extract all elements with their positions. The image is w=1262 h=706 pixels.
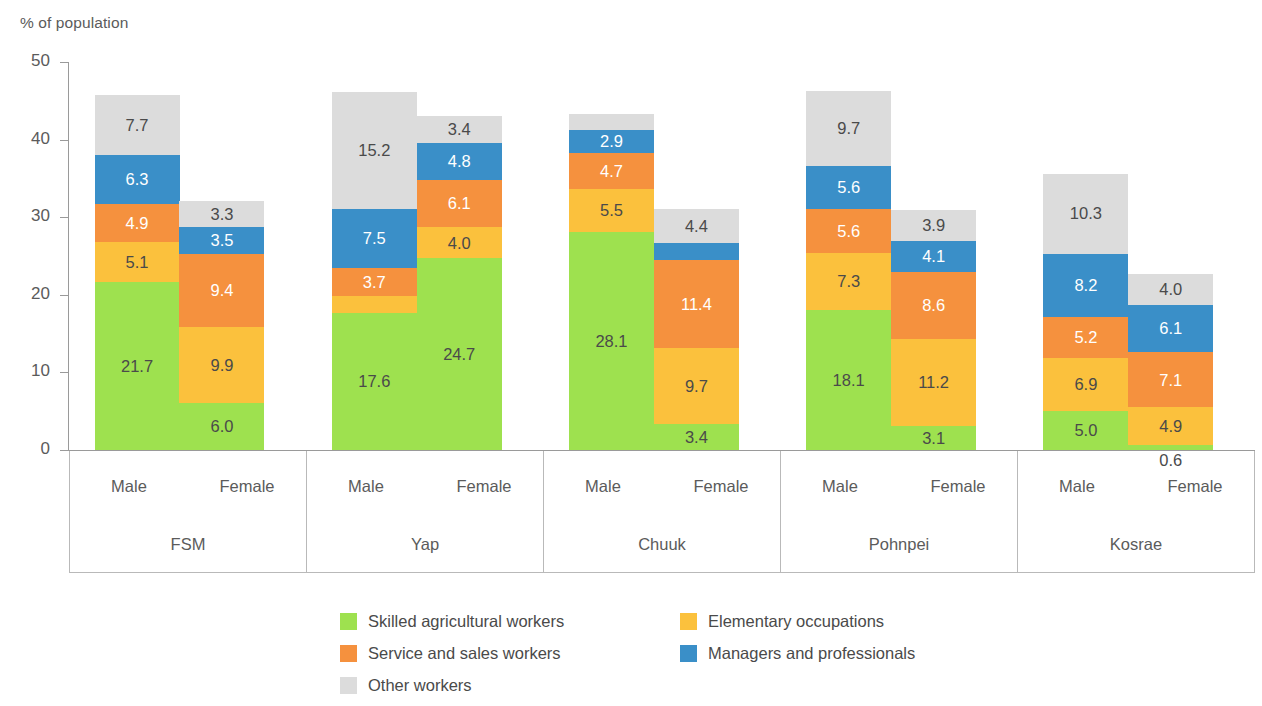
bar-segment-value: 18.1 [833, 372, 865, 389]
bar-segment-value: 5.5 [600, 202, 623, 219]
bar-segment-value: 24.7 [443, 346, 475, 363]
y-tick-mark [60, 295, 69, 296]
category-group-yap: MaleFemaleYap [307, 451, 544, 572]
bar-segment: 5.2 [1043, 317, 1128, 357]
bar-segment: 5.5 [569, 189, 654, 232]
bar-segment: 8.2 [1043, 254, 1128, 318]
bar-fsm-male: 7.76.34.95.121.7 [95, 95, 180, 450]
legend-row: Other workers [340, 676, 960, 695]
y-tick-mark [60, 217, 69, 218]
bar-segment-value: 4.0 [1159, 281, 1182, 298]
subgroup-label-male: Male [544, 477, 662, 496]
group-label-kosrae: Kosrae [1018, 535, 1254, 554]
chart-legend: Skilled agricultural workersElementary o… [340, 612, 960, 706]
bar-segment-value: 5.0 [1074, 422, 1097, 439]
bar-segment: 4.9 [95, 204, 180, 242]
y-tick-label: 10 [4, 361, 50, 381]
category-group-chuuk: MaleFemaleChuuk [544, 451, 781, 572]
y-tick-mark [60, 372, 69, 373]
legend-swatch-icon [680, 645, 697, 662]
bar-pohnpei-male: 9.75.65.67.318.1 [806, 91, 891, 450]
bar-segment-value: 21.7 [121, 358, 153, 375]
bar-segment: 4.7 [569, 153, 654, 189]
bar-segment-value: 11.2 [918, 374, 949, 391]
bar-segment: 6.3 [95, 155, 180, 204]
bar-segment: 2.2 [654, 243, 739, 260]
bar-segment-value: 2.9 [600, 133, 623, 150]
bar-segment: 3.4 [654, 424, 739, 450]
bar-segment-value: 6.1 [1159, 320, 1182, 337]
subgroup-label-female: Female [188, 477, 306, 496]
bar-segment-value: 7.7 [126, 117, 149, 134]
bar-segment-value: 3.7 [363, 274, 386, 291]
subgroup-label-female: Female [425, 477, 543, 496]
bar-segment-value: 7.1 [1159, 372, 1182, 389]
bar-segment: 3.1 [891, 426, 976, 450]
bar-segment-value: 9.7 [685, 378, 708, 395]
bar-fsm-female: 3.33.59.49.96.0 [179, 201, 264, 450]
subgroup-label-female: Female [662, 477, 780, 496]
bar-segment-value: 5.1 [126, 254, 149, 271]
bar-segment-value: 15.2 [358, 142, 390, 159]
bar-segment-value: 5.6 [837, 179, 860, 196]
legend-item[interactable]: Other workers [340, 676, 680, 695]
bar-segment: 9.7 [654, 348, 739, 423]
bar-segment-value: 28.1 [595, 333, 627, 350]
y-tick-mark [60, 140, 69, 141]
bar-segment-value: 3.4 [685, 429, 708, 446]
bar-segment-value: 4.0 [448, 235, 471, 252]
group-label-pohnpei: Pohnpei [781, 535, 1017, 554]
bar-yap-male: 15.27.53.72.217.6 [332, 92, 417, 450]
bar-kosrae-female: 4.06.17.14.90.6 [1128, 274, 1213, 450]
legend-swatch-icon [340, 613, 357, 630]
bar-segment: 3.3 [179, 201, 264, 227]
bar-segment-value: 3.9 [922, 217, 945, 234]
bar-segment-value: 9.7 [837, 120, 860, 137]
subgroup-labels: MaleFemale [70, 477, 306, 496]
bar-segment: 3.4 [417, 116, 502, 142]
y-tick-label: 30 [4, 206, 50, 226]
bar-pohnpei-female: 3.94.18.611.23.1 [891, 210, 976, 450]
legend-item[interactable]: Managers and professionals [680, 644, 960, 663]
bar-segment-value: 4.7 [600, 163, 623, 180]
bar-segment: 24.7 [417, 258, 502, 450]
bar-segment-value: 5.2 [1074, 329, 1097, 346]
bar-segment: 2.1 [569, 114, 654, 130]
category-group-kosrae: MaleFemaleKosrae [1018, 451, 1254, 572]
legend-item[interactable]: Service and sales workers [340, 644, 680, 663]
bar-segment: 7.3 [806, 253, 891, 310]
bar-segment: 6.9 [1043, 358, 1128, 412]
bar-segment: 4.9 [1128, 407, 1213, 445]
bar-segment: 7.1 [1128, 352, 1213, 407]
bar-segment-value: 9.9 [211, 357, 234, 374]
subgroup-labels: MaleFemale [1018, 477, 1254, 496]
y-tick-mark [60, 62, 69, 63]
bar-segment-value: 7.5 [363, 230, 386, 247]
bar-segment-value: 4.1 [922, 248, 945, 265]
bar-yap-female: 3.44.86.14.024.7 [417, 116, 502, 450]
bar-segment: 4.4 [654, 209, 739, 243]
bar-segment-value: 4.9 [1159, 418, 1182, 435]
subgroup-label-male: Male [781, 477, 899, 496]
bar-segment: 4.8 [417, 143, 502, 180]
bar-segment-value: 8.6 [922, 297, 945, 314]
bar-segment: 7.5 [332, 209, 417, 267]
bar-segment-value: 10.3 [1070, 205, 1102, 222]
legend-label: Service and sales workers [368, 644, 561, 663]
y-tick-label: 0 [4, 439, 50, 459]
subgroup-label-male: Male [307, 477, 425, 496]
bar-segment: 3.7 [332, 268, 417, 297]
y-tick-label: 20 [4, 284, 50, 304]
bar-chuuk-female: 4.42.211.49.73.4 [654, 209, 739, 450]
legend-item[interactable]: Skilled agricultural workers [340, 612, 680, 631]
legend-row: Service and sales workersManagers and pr… [340, 644, 960, 663]
legend-item[interactable]: Elementary occupations [680, 612, 960, 631]
bar-segment: 7.7 [95, 95, 180, 155]
bar-segment: 15.2 [332, 92, 417, 210]
bar-segment: 4.0 [1128, 274, 1213, 305]
plot-area: 01020304050 7.76.34.95.121.73.33.59.49.9… [0, 0, 1262, 706]
bar-segment: 5.0 [1043, 411, 1128, 450]
legend-label: Managers and professionals [708, 644, 915, 663]
chart-container: % of population 01020304050 7.76.34.95.1… [0, 0, 1262, 706]
bar-segment: 5.1 [95, 242, 180, 282]
